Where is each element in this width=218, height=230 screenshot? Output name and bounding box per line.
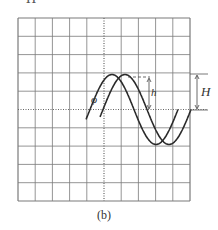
annotations: H h φ (91, 74, 211, 110)
h-label: h (151, 86, 157, 98)
waveform-1-curve (86, 75, 178, 145)
figure-caption: (b) (0, 208, 208, 223)
center-axes (18, 18, 208, 201)
phase-label: φ (91, 93, 97, 105)
oscilloscope-figure: H H h φ (b) (0, 0, 218, 230)
H-label: H (200, 84, 211, 99)
oscilloscope-grid: H h φ (0, 0, 218, 230)
